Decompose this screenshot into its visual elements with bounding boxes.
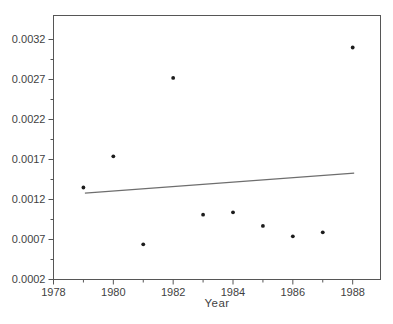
data-point <box>171 76 175 80</box>
data-point <box>231 210 235 214</box>
y-axis-tick-label: 0.0012 <box>12 193 46 205</box>
y-axis-tick-label: 0.0007 <box>12 233 46 245</box>
data-point <box>82 186 86 190</box>
data-point <box>321 230 325 234</box>
plot-frame <box>54 16 381 280</box>
y-axis-tick-label: 0.0017 <box>12 153 46 165</box>
data-point <box>351 46 355 50</box>
data-point <box>201 213 205 217</box>
y-axis-tick-label: 0.0022 <box>12 113 46 125</box>
data-point <box>291 234 295 238</box>
data-point <box>111 154 115 158</box>
y-axis-tick-label: 0.0002 <box>12 273 46 285</box>
scatter-figure: 1978198019821984198619880.00020.00070.00… <box>0 0 393 324</box>
data-point <box>141 242 145 246</box>
y-axis-tick-label: 0.0032 <box>12 33 46 45</box>
y-axis-tick-label: 0.0027 <box>12 73 46 85</box>
scatter-plot: 1978198019821984198619880.00020.00070.00… <box>0 0 393 324</box>
data-point <box>261 224 265 228</box>
x-axis-title: Year <box>53 297 381 309</box>
